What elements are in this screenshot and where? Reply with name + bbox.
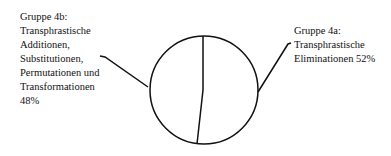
label-line: Gruppe 4b: [20, 10, 100, 24]
pie-outline [150, 36, 258, 144]
label-line: Substitutionen, [20, 52, 100, 66]
label-line: Additionen, [20, 38, 100, 52]
label-line: Gruppe 4a: [294, 24, 375, 38]
label-gruppe-4a: Gruppe 4a: Transphrastische Eliminatione… [294, 24, 375, 66]
label-line: Eliminationen 52% [294, 52, 375, 66]
label-line: Transphrastische [294, 38, 375, 52]
leader-line-4b [100, 56, 148, 87]
pie-chart: Gruppe 4b: Transphrastische Additionen, … [0, 0, 391, 156]
label-gruppe-4b: Gruppe 4b: Transphrastische Additionen, … [20, 10, 100, 108]
leader-line-4a [258, 43, 291, 92]
label-line: Transphrastische [20, 24, 100, 38]
label-line: Permutationen und [20, 66, 100, 80]
slice-divider [197, 36, 203, 144]
label-line: Transformationen [20, 80, 100, 94]
label-line: 48% [20, 94, 100, 108]
